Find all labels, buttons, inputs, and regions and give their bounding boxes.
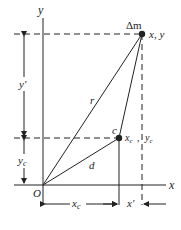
mass-point [139,31,145,37]
vector-c-to-m [119,34,142,138]
center-coord-sep: , [137,132,140,143]
x-axis-label: x [168,178,175,192]
center-of-mass-diagram: y x O Δm x, y c xc , yc r d y′ yc xc x′ [0,0,181,230]
y-axis-label: y [37,3,44,17]
center-coord-y: yc [144,132,153,145]
d-label: d [89,159,95,171]
y-prime-label: y′ [18,78,27,90]
mass-coord-label: x, y [148,28,164,40]
vector-d [43,138,119,185]
x-prime-label: x′ [126,197,135,209]
r-label: r [90,94,95,106]
mass-label: Δm [126,19,142,31]
origin-label: O [33,187,41,199]
center-label: c [112,124,117,136]
center-coord-x: xc [124,132,133,145]
